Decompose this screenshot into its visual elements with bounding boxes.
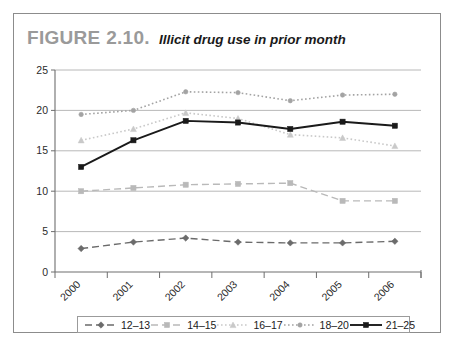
svg-text:5: 5 — [42, 225, 48, 237]
svg-text:2004: 2004 — [267, 278, 292, 303]
legend-swatch-12-13 — [84, 319, 118, 331]
legend-item-14-15[interactable]: 14–15 — [150, 319, 216, 331]
svg-text:2003: 2003 — [214, 278, 239, 303]
chart-series-14-15 — [79, 181, 398, 204]
svg-text:25: 25 — [36, 64, 48, 76]
svg-text:2001: 2001 — [110, 278, 135, 303]
legend-label-16-17: 16–17 — [253, 319, 282, 331]
figure-title: FIGURE 2.10.Illicit drug use in prior mo… — [27, 27, 427, 53]
legend-label-12-13: 12–13 — [121, 319, 150, 331]
svg-text:2006: 2006 — [371, 278, 396, 303]
legend-label-21-25: 21–25 — [386, 319, 415, 331]
legend-swatch-18-20 — [283, 319, 317, 331]
svg-text:10: 10 — [36, 185, 48, 197]
chart-legend: 12–13 14–15 16–17 18–20 21–25 — [77, 316, 410, 333]
svg-text:2002: 2002 — [162, 278, 187, 303]
line-chart-svg: 0510152025 2000200120022003200420052006 — [25, 62, 431, 320]
chart-series-16-17 — [78, 110, 398, 149]
legend-swatch-16-17 — [216, 319, 250, 331]
legend-item-16-17[interactable]: 16–17 — [216, 319, 282, 331]
svg-text:15: 15 — [36, 144, 48, 156]
chart-x-axis: 2000200120022003200420052006 — [55, 272, 421, 303]
chart-series-layer — [78, 90, 398, 252]
svg-text:2000: 2000 — [58, 278, 83, 303]
chart-series-21-25 — [79, 118, 398, 169]
legend-label-14-15: 14–15 — [187, 319, 216, 331]
legend-item-21-25[interactable]: 21–25 — [349, 319, 415, 331]
svg-text:2005: 2005 — [319, 278, 344, 303]
chart-series-12-13 — [78, 235, 398, 252]
figure-card: FIGURE 2.10.Illicit drug use in prior mo… — [13, 13, 441, 333]
figure-number-label: FIGURE 2.10. — [27, 27, 150, 48]
legend-label-18-20: 18–20 — [320, 319, 349, 331]
chart-plot-area: 0510152025 2000200120022003200420052006 — [25, 62, 431, 320]
svg-text:0: 0 — [42, 266, 48, 278]
svg-text:20: 20 — [36, 104, 48, 116]
figure-caption-text: Illicit drug use in prior month — [159, 32, 346, 47]
legend-item-18-20[interactable]: 18–20 — [283, 319, 349, 331]
chart-y-axis: 0510152025 — [36, 64, 421, 278]
legend-item-12-13[interactable]: 12–13 — [84, 319, 150, 331]
legend-swatch-21-25 — [349, 319, 383, 331]
chart-series-18-20 — [79, 90, 397, 117]
legend-swatch-14-15 — [150, 319, 184, 331]
